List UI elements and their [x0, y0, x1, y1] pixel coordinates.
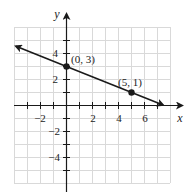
data-points: (0, 3) (5, 1) — [63, 53, 142, 96]
x-tick-label: −2 — [34, 112, 46, 124]
x-tick-label: 2 — [90, 112, 96, 124]
point-0-3 — [63, 63, 69, 69]
point-label: (5, 1) — [118, 76, 142, 89]
x-tick-label: 6 — [142, 112, 148, 124]
y-tick-label: −2 — [48, 125, 60, 137]
point-5-1 — [128, 89, 134, 95]
y-tick-label: 4 — [53, 47, 59, 59]
x-tick-label: 4 — [116, 112, 122, 124]
coordinate-plane: −2 2 4 6 x 4 2 −2 −4 y (0 — [0, 0, 190, 196]
y-axis-label: y — [53, 7, 60, 21]
x-axis-label: x — [176, 111, 183, 125]
y-tick-label: −4 — [48, 151, 60, 163]
y-tick-label: 2 — [53, 73, 59, 85]
point-label: (0, 3) — [71, 53, 95, 66]
y-axis: 4 2 −2 −4 y — [48, 7, 70, 192]
